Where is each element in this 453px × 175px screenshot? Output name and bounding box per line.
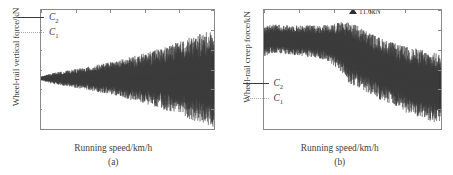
y-tick-20: 20 bbox=[40, 104, 41, 114]
x-tick-mark-top bbox=[264, 10, 265, 13]
chart-panel-a: Wheel-rail vertical force/kN 02040608010… bbox=[0, 0, 227, 175]
y-tick-mark-right bbox=[211, 30, 214, 31]
legend-item-c1: C1 bbox=[243, 91, 284, 106]
legend-key-c1-dotted bbox=[243, 98, 269, 99]
x-tick-mark-top bbox=[441, 10, 442, 13]
x-tick-150: 150 bbox=[363, 129, 376, 130]
y-tick-mark-right bbox=[438, 70, 441, 71]
x-tick-mark-top bbox=[405, 10, 406, 13]
legend-item-c2: C2 bbox=[243, 76, 284, 91]
x-tick-mark-top bbox=[76, 10, 77, 13]
y-tick-mark-right bbox=[211, 109, 214, 110]
legend-panel-b: C2 C1 bbox=[243, 76, 284, 106]
chart-panel-b: Wheel-rail creep force/kN 11.6kN 0246810… bbox=[227, 0, 453, 175]
plot-area-panel-b: 11.6kN 024681012050100150200250 bbox=[263, 9, 442, 130]
panel-caption-b: (b) bbox=[227, 157, 453, 167]
y-tick-80: 80 bbox=[40, 45, 41, 55]
y-tick-0: 0 bbox=[263, 124, 264, 130]
legend-label-c2: C2 bbox=[274, 78, 284, 90]
y-tick-mark-right bbox=[211, 50, 214, 51]
x-tick-250: 250 bbox=[434, 129, 441, 130]
y-tick-mark-right bbox=[438, 89, 441, 90]
x-tick-50: 50 bbox=[71, 129, 80, 130]
legend-panel-a: C2 C1 bbox=[18, 10, 59, 40]
x-tick-200: 200 bbox=[399, 129, 412, 130]
y-tick-0: 0 bbox=[40, 124, 41, 130]
x-tick-mark-top bbox=[145, 10, 146, 13]
x-tick-mark-top bbox=[214, 10, 215, 13]
legend-item-c2: C2 bbox=[18, 10, 59, 25]
x-axis-label-panel-b: Running speed/km/h bbox=[227, 143, 453, 153]
y-tick-mark-right bbox=[211, 129, 214, 130]
x-tick-250: 250 bbox=[208, 129, 215, 130]
legend-label-c2: C2 bbox=[49, 12, 59, 24]
legend-key-c2-solid bbox=[243, 83, 269, 84]
legend-label-c1: C1 bbox=[49, 27, 59, 39]
y-tick-6: 6 bbox=[263, 65, 264, 75]
y-tick-mark-right bbox=[438, 109, 441, 110]
y-tick-mark-right bbox=[211, 70, 214, 71]
x-tick-mark-top bbox=[179, 10, 180, 13]
x-tick-100: 100 bbox=[104, 129, 117, 130]
y-tick-60: 60 bbox=[40, 65, 41, 75]
figure-two-panel-charts: Wheel-rail vertical force/kN 02040608010… bbox=[0, 0, 453, 175]
series-canvas-panel-a bbox=[41, 10, 214, 129]
series-canvas-panel-b bbox=[264, 10, 441, 129]
panel-caption-a: (a) bbox=[0, 157, 227, 167]
x-tick-mark-top bbox=[110, 10, 111, 13]
x-tick-150: 150 bbox=[138, 129, 151, 130]
plot-area-panel-a: 02040608010012050100150200250 bbox=[40, 9, 215, 130]
annotation-peak-creep-force: 11.6kN bbox=[349, 9, 381, 16]
y-tick-mark-right bbox=[211, 89, 214, 90]
y-tick-10: 10 bbox=[263, 25, 264, 35]
y-tick-mark-right bbox=[438, 129, 441, 130]
legend-label-c1: C1 bbox=[274, 93, 284, 105]
arrow-icon bbox=[349, 9, 357, 14]
x-tick-200: 200 bbox=[173, 129, 186, 130]
legend-key-c1-dotted bbox=[18, 32, 44, 33]
x-tick-50: 50 bbox=[295, 129, 304, 130]
legend-item-c1: C1 bbox=[18, 25, 59, 40]
y-tick-mark-right bbox=[438, 50, 441, 51]
legend-key-c2-solid bbox=[18, 17, 44, 18]
x-tick-mark-top bbox=[334, 10, 335, 13]
x-axis-label-panel-a: Running speed/km/h bbox=[0, 143, 227, 153]
x-tick-100: 100 bbox=[328, 129, 341, 130]
x-tick-mark-top bbox=[299, 10, 300, 13]
y-tick-mark-right bbox=[438, 30, 441, 31]
y-tick-8: 8 bbox=[263, 45, 264, 55]
x-tick-0: 0 bbox=[263, 129, 266, 130]
annotation-label: 11.6kN bbox=[359, 9, 381, 16]
y-tick-40: 40 bbox=[40, 84, 41, 94]
